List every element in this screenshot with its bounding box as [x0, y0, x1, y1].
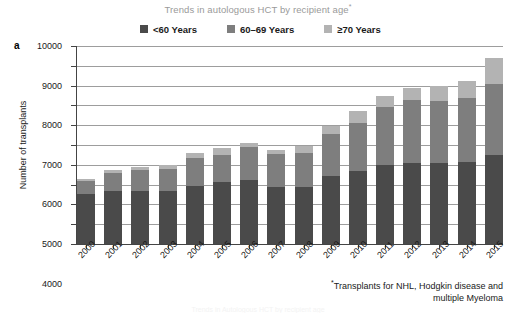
- bar-column[interactable]: [322, 46, 340, 244]
- bar-segment[interactable]: [322, 134, 340, 176]
- bar-column[interactable]: [186, 46, 204, 244]
- bar-segment[interactable]: [213, 155, 231, 182]
- bar-segment[interactable]: [485, 58, 503, 84]
- bar-segment[interactable]: [295, 146, 313, 153]
- y-axis-tick-label: 7000: [42, 160, 62, 170]
- bar-segment[interactable]: [430, 86, 448, 102]
- legend-item: ≥70 Years: [324, 24, 381, 35]
- bar-column[interactable]: [77, 46, 95, 244]
- bar-segment[interactable]: [349, 123, 367, 171]
- bar-segment[interactable]: [458, 162, 476, 244]
- bar-segment[interactable]: [458, 81, 476, 99]
- bar-column[interactable]: [349, 46, 367, 244]
- bar-segment[interactable]: [104, 173, 122, 191]
- bar-segment[interactable]: [240, 147, 258, 180]
- y-axis-tick-label: 6000: [42, 199, 62, 209]
- bar-segment[interactable]: [104, 191, 122, 244]
- y-axis-tick: 0: [71, 244, 77, 245]
- bar-segment[interactable]: [376, 96, 394, 108]
- chart-title-text: Trends in autologous HCT by recipient ag…: [164, 4, 348, 15]
- plot-area: 0100020003000400050006000700080009000100…: [77, 46, 503, 244]
- y-axis-tick-label: 4000: [42, 279, 62, 289]
- figure-panel-a: Trends in autologous HCT by recipient ag…: [0, 0, 516, 317]
- legend-label: ≥70 Years: [337, 24, 381, 35]
- chart-title: Trends in autologous HCT by recipient ag…: [0, 3, 516, 15]
- chart-title-marker: *: [349, 3, 352, 10]
- legend-label: <60 Years: [153, 24, 197, 35]
- bar-column[interactable]: [267, 46, 285, 244]
- bar-segment[interactable]: [349, 111, 367, 123]
- bar-segment[interactable]: [458, 98, 476, 161]
- bar-segment[interactable]: [376, 107, 394, 164]
- bar-segment[interactable]: [403, 88, 421, 101]
- bar-segment[interactable]: [403, 100, 421, 162]
- caption-partial: Trends in Autologous HCT by recipient ag…: [0, 306, 516, 313]
- bar-segment[interactable]: [213, 182, 231, 244]
- bar-column[interactable]: [104, 46, 122, 244]
- bar-column[interactable]: [131, 46, 149, 244]
- legend-swatch-icon: [324, 25, 332, 33]
- legend-swatch-icon: [227, 25, 235, 33]
- bar-column[interactable]: [240, 46, 258, 244]
- footnote-line-1: Transplants for NHL, Hodgkin disease and: [334, 281, 503, 291]
- legend-swatch-icon: [140, 25, 148, 33]
- footnote-line-2: multiple Myeloma: [433, 293, 503, 303]
- bar-segment[interactable]: [403, 163, 421, 244]
- bar-segment[interactable]: [322, 176, 340, 244]
- footnote: *Transplants for NHL, Hodgkin disease an…: [203, 277, 503, 304]
- bar-column[interactable]: [159, 46, 177, 244]
- bar-segment[interactable]: [430, 101, 448, 162]
- bar-segment[interactable]: [159, 169, 177, 191]
- legend-item: 60–69 Years: [227, 24, 294, 35]
- bar-segment[interactable]: [77, 181, 95, 194]
- bar-segment[interactable]: [322, 126, 340, 134]
- bar-segment[interactable]: [131, 191, 149, 244]
- y-axis-tick-label: 9000: [42, 81, 62, 91]
- bar-segment[interactable]: [430, 163, 448, 244]
- bar-segment[interactable]: [295, 187, 313, 244]
- bar-segment[interactable]: [349, 171, 367, 244]
- bar-segment[interactable]: [131, 170, 149, 191]
- bar-segment[interactable]: [295, 153, 313, 187]
- y-axis-tick-label: 8000: [42, 120, 62, 130]
- bar-segment[interactable]: [376, 165, 394, 244]
- bar-column[interactable]: [213, 46, 231, 244]
- legend-item: <60 Years: [140, 24, 197, 35]
- bar-segment[interactable]: [267, 154, 285, 187]
- bar-segment[interactable]: [186, 158, 204, 186]
- bar-column[interactable]: [430, 46, 448, 244]
- y-axis-tick-label: 5000: [42, 239, 62, 249]
- bar-segment[interactable]: [267, 187, 285, 244]
- y-axis-tick-label: 10000: [37, 41, 62, 51]
- bar-segment[interactable]: [77, 194, 95, 244]
- bar-column[interactable]: [403, 46, 421, 244]
- bar-segment[interactable]: [213, 148, 231, 155]
- bar-segment[interactable]: [485, 84, 503, 155]
- bar-segment[interactable]: [240, 180, 258, 244]
- bar-column[interactable]: [295, 46, 313, 244]
- bar-column[interactable]: [485, 46, 503, 244]
- bar-column[interactable]: [376, 46, 394, 244]
- bar-segment[interactable]: [186, 186, 204, 244]
- panel-label: a: [14, 40, 20, 51]
- bar-segment[interactable]: [485, 155, 503, 244]
- y-axis-title: Number of transplants: [18, 60, 28, 230]
- bars-group: [77, 46, 503, 244]
- bar-column[interactable]: [458, 46, 476, 244]
- bar-segment[interactable]: [159, 191, 177, 244]
- chart-legend: <60 Years60–69 Years≥70 Years: [138, 22, 438, 36]
- legend-label: 60–69 Years: [240, 24, 294, 35]
